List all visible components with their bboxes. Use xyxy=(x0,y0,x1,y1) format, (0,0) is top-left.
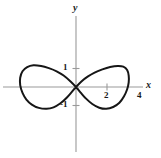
plot-figure: y x 1 -1 2 4 xyxy=(0,0,161,158)
y-axis-label: y xyxy=(73,3,77,13)
y-tick-label-minus-1: -1 xyxy=(60,100,68,109)
x-axis-label: x xyxy=(146,80,151,90)
y-tick-label-1: 1 xyxy=(63,63,68,72)
plot-canvas xyxy=(0,0,161,158)
x-tick-label-4: 4 xyxy=(137,91,142,100)
x-tick-label-2: 2 xyxy=(104,91,109,100)
